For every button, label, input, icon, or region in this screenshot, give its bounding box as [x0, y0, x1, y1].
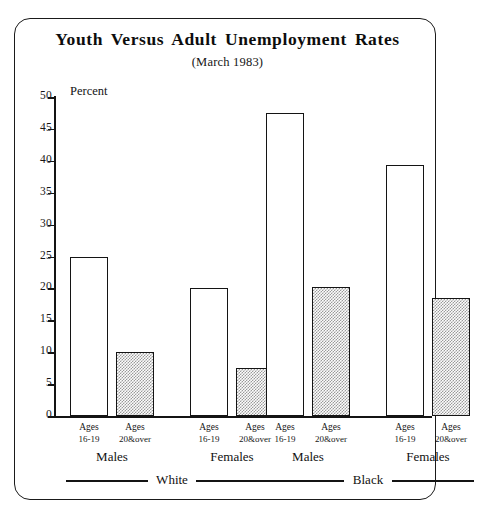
- y-axis-tick-label: 40: [40, 153, 52, 165]
- y-axis-tick-label: 30: [40, 217, 52, 229]
- chart-title: Youth Versus Adult Unemployment Rates: [0, 30, 455, 49]
- y-axis-tick-label: 50: [40, 89, 52, 101]
- bar: [386, 165, 424, 416]
- bar-age-label-line2: 20&over: [424, 434, 478, 446]
- race-group-label: Black: [344, 472, 392, 488]
- bar: [432, 298, 470, 416]
- race-group-rule-right: [392, 480, 474, 482]
- y-axis-tick-label: 5: [46, 376, 52, 388]
- sex-group-label: Males: [67, 449, 157, 465]
- y-axis-tick-label: 45: [40, 121, 52, 133]
- sex-group-label: Males: [263, 449, 353, 465]
- y-axis-tick-label: 20: [40, 280, 52, 292]
- bar: [116, 352, 154, 416]
- y-axis-tick-label: 35: [40, 185, 52, 197]
- bar: [312, 287, 350, 416]
- y-axis-title: Percent: [70, 84, 107, 99]
- bar-age-label: Ages20&over: [108, 422, 162, 445]
- x-axis-line: [54, 416, 432, 418]
- chart-subtitle: (March 1983): [0, 55, 455, 70]
- bar-age-label-line1: Ages: [424, 422, 478, 434]
- y-axis-tick-label: 10: [40, 344, 52, 356]
- race-group-rule-left: [66, 480, 148, 482]
- bar-age-label-line1: Ages: [304, 422, 358, 434]
- title-block: Youth Versus Adult Unemployment Rates (M…: [0, 30, 455, 70]
- bar: [70, 257, 108, 417]
- bar-age-label-line2: 20&over: [304, 434, 358, 446]
- bar-age-label-line1: Ages: [108, 422, 162, 434]
- y-axis-tick-label: 25: [40, 249, 52, 261]
- bar: [190, 288, 228, 416]
- bar-age-label-line2: 20&over: [108, 434, 162, 446]
- sex-group-label: Females: [383, 449, 473, 465]
- race-group-label: White: [148, 472, 196, 488]
- race-group: White: [66, 473, 278, 487]
- race-group-rule-left: [262, 480, 344, 482]
- y-axis-tick-label: 0: [46, 408, 52, 420]
- bar-age-label: Ages20&over: [304, 422, 358, 445]
- race-group: Black: [262, 473, 474, 487]
- y-axis-tick-label: 15: [40, 312, 52, 324]
- bar: [266, 113, 304, 416]
- bar-age-label: Ages20&over: [424, 422, 478, 445]
- plot-area: Percent 05101520253035404550 Ages16-19Ag…: [56, 97, 432, 416]
